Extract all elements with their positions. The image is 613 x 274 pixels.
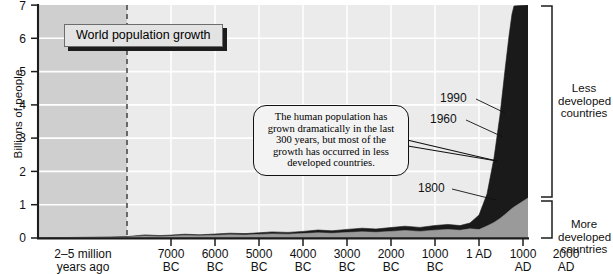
annotation-1960: 1960	[430, 112, 457, 126]
x-tick-4000bc-line2: BC	[290, 261, 317, 274]
x-tick-1ad-line1: 1 AD	[466, 248, 492, 261]
legend-more-developed: More developed countries	[558, 218, 610, 256]
y-tick-label-3: 3	[10, 131, 26, 145]
x-tick-3000bc-line2: BC	[334, 261, 361, 274]
x-tick-marks	[171, 239, 523, 247]
y-tick-label-5: 5	[10, 65, 26, 79]
x-tick-label-3000bc: 3000 BC	[334, 248, 361, 274]
legend-less-developed-line1: Less	[558, 82, 610, 95]
legend-more-developed-line1: More	[558, 218, 610, 231]
x-tick-label-4000bc: 4000 BC	[290, 248, 317, 274]
x-tick-label-7000bc: 7000 BC	[158, 248, 185, 274]
legend-less-developed-line3: countries	[558, 107, 610, 120]
y-tick-label-6: 6	[10, 32, 26, 46]
x-tick-label-prehistoric: 2–5 million years ago	[54, 248, 111, 274]
x-tick-label-6000bc: 6000 BC	[202, 248, 229, 274]
x-tick-1000bc-line2: BC	[422, 261, 449, 274]
callout-annotation: The human population has grown dramatica…	[253, 105, 409, 176]
x-tick-5000bc-line2: BC	[246, 261, 273, 274]
legend-more-developed-line2: developed	[558, 231, 610, 244]
legend-less-developed-line2: developed	[558, 95, 610, 108]
annotation-1990: 1990	[440, 91, 467, 105]
x-tick-1000ad-line2: AD	[510, 261, 537, 274]
y-tick-label-0: 0	[10, 231, 26, 245]
x-tick-label-5000bc: 5000 BC	[246, 248, 273, 274]
x-tick-label-1ad: 1 AD	[466, 248, 492, 261]
annotation-1800: 1800	[418, 181, 445, 195]
x-tick-prehistoric-line2: years ago	[54, 261, 111, 274]
x-tick-label-1000bc: 1000 BC	[422, 248, 449, 274]
y-tick-label-2: 2	[10, 165, 26, 179]
x-tick-label-2000bc: 2000 BC	[378, 248, 405, 274]
x-tick-6000bc-line2: BC	[202, 261, 229, 274]
legend-less-developed: Less developed countries	[558, 82, 610, 120]
x-tick-2000bc-line2: BC	[378, 261, 405, 274]
y-tick-label-4: 4	[10, 98, 26, 112]
legend-more-developed-line3: countries	[558, 243, 610, 256]
bracket-more-developed	[541, 201, 552, 238]
bracket-less-developed	[541, 6, 552, 197]
y-tick-label-7: 7	[10, 0, 26, 13]
x-tick-2000ad-line2: AD	[553, 261, 580, 274]
x-tick-label-1000ad: 1000 AD	[510, 248, 537, 274]
y-tick-label-1: 1	[10, 198, 26, 212]
chart-title: World population growth	[64, 24, 223, 47]
x-tick-7000bc-line2: BC	[158, 261, 185, 274]
